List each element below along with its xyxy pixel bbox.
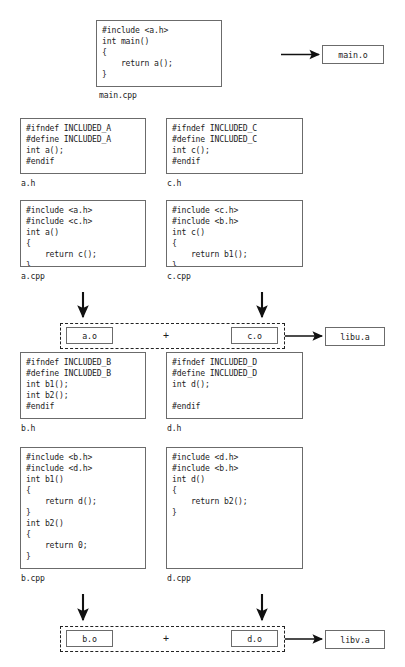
caption-a-cpp: a.cpp bbox=[21, 271, 45, 281]
source-box-c-h: #ifndef INCLUDED_C #define INCLUDED_C in… bbox=[166, 118, 303, 174]
caption-b-cpp: b.cpp bbox=[21, 573, 45, 583]
source-box-main-cpp: #include <a.h> int main() { return a(); … bbox=[96, 20, 222, 87]
diagram-canvas: #include <a.h> int main() { return a(); … bbox=[0, 0, 405, 667]
caption-c-cpp: c.cpp bbox=[167, 271, 191, 281]
caption-b-h: b.h bbox=[21, 423, 35, 433]
source-box-c-cpp: #include <c.h> #include <b.h> int c() { … bbox=[166, 200, 303, 267]
object-box-b-o: b.o bbox=[66, 630, 113, 647]
source-box-d-cpp: #include <d.h> #include <b.h> int d() { … bbox=[166, 447, 303, 569]
source-box-b-cpp: #include <b.h> #include <d.h> int b1() {… bbox=[20, 447, 146, 569]
caption-d-cpp: d.cpp bbox=[167, 573, 191, 583]
caption-main-cpp: main.cpp bbox=[99, 90, 137, 100]
library-box-libu-a: libu.a bbox=[325, 327, 385, 346]
object-box-d-o: d.o bbox=[231, 630, 278, 647]
plus-operator-libu: + bbox=[160, 331, 172, 341]
source-box-a-cpp: #include <a.h> #include <c.h> int a() { … bbox=[20, 200, 146, 267]
caption-d-h: d.h bbox=[167, 423, 181, 433]
source-box-b-h: #ifndef INCLUDED_B #define INCLUDED_B in… bbox=[20, 352, 146, 419]
plus-operator-libv: + bbox=[160, 634, 172, 644]
caption-a-h: a.h bbox=[21, 178, 35, 188]
source-box-d-h: #ifndef INCLUDED_D #define INCLUDED_D in… bbox=[166, 352, 303, 419]
caption-c-h: c.h bbox=[167, 178, 181, 188]
object-box-main-o: main.o bbox=[322, 45, 384, 64]
library-box-libv-a: libv.a bbox=[325, 630, 385, 649]
source-box-a-h: #ifndef INCLUDED_A #define INCLUDED_A in… bbox=[20, 118, 146, 174]
object-box-c-o: c.o bbox=[231, 327, 278, 344]
object-box-a-o: a.o bbox=[66, 327, 113, 344]
